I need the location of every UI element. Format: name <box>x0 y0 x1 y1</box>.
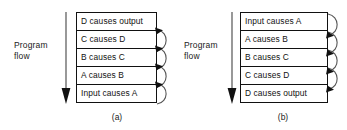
program-flow-group-b: Program flow <box>184 12 246 104</box>
program-flow-label-a: Program flow <box>14 40 66 61</box>
statement-row: A causes B <box>241 31 327 49</box>
statement-row: D causes output <box>77 13 156 31</box>
statement-row: A causes B <box>77 67 156 85</box>
down-arrow-icon <box>60 12 72 104</box>
statement-stack-a: D causes output C causes D B causes C A … <box>76 12 157 103</box>
statement-row: B causes C <box>241 49 327 67</box>
program-flow-group-a: Program flow <box>14 12 76 104</box>
statement-stack-b: Input causes A A causes B B causes C C c… <box>240 12 328 103</box>
statement-row: D causes output <box>241 85 327 103</box>
statement-row: B causes C <box>77 49 156 67</box>
down-arrow-icon <box>226 12 238 104</box>
panel-b: Program flow Input causes A A causes B B… <box>180 0 347 130</box>
statement-row: Input causes A <box>241 13 327 31</box>
statement-row: C causes D <box>77 31 156 49</box>
statement-row: Input causes A <box>77 85 156 103</box>
statement-row: C causes D <box>241 67 327 85</box>
panel-caption-b: (b) <box>253 112 313 122</box>
panel-a: Program flow D causes output C causes D … <box>0 0 180 130</box>
panel-caption-a: (a) <box>87 112 147 122</box>
figure-program-flow-diagram: Program flow D causes output C causes D … <box>0 0 347 130</box>
